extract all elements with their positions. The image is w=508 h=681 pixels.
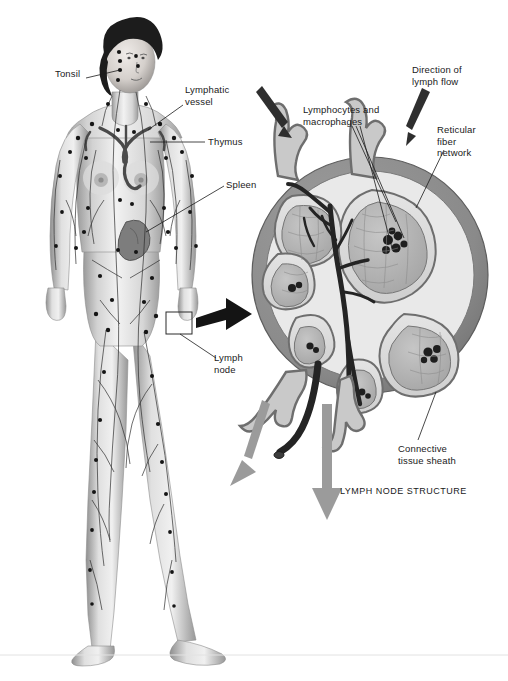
inflow-arrow-right: [406, 88, 430, 130]
panel-title-lymph-node-structure: LYMPH NODE STRUCTURE: [340, 486, 467, 498]
outflow-arrow-left: [230, 460, 256, 486]
label-connective-tissue-sheath: Connective tissue sheath: [398, 443, 456, 466]
label-direction-of-lymph-flow: Direction of lymph flow: [412, 64, 462, 87]
label-reticular-fiber-network: Reticular fiber network: [437, 124, 476, 159]
label-thymus: Thymus: [208, 136, 243, 148]
label-tonsil: Tonsil: [55, 68, 80, 80]
label-lymphatic-vessel: Lymphatic vessel: [185, 84, 229, 107]
label-lymphocytes-and-macrophages: Lymphocytes and macrophages: [303, 104, 379, 127]
outflow-arrow-bottom: [312, 488, 342, 520]
lymphatic-system-figure: [0, 0, 508, 681]
body-illustration: [46, 17, 226, 666]
label-lymph-node: Lymph node: [214, 352, 243, 375]
detail-pointer-arrow: [196, 298, 252, 330]
leader-lymph-node: [180, 334, 216, 358]
label-spleen: Spleen: [226, 179, 256, 191]
leader-connective: [418, 392, 436, 440]
